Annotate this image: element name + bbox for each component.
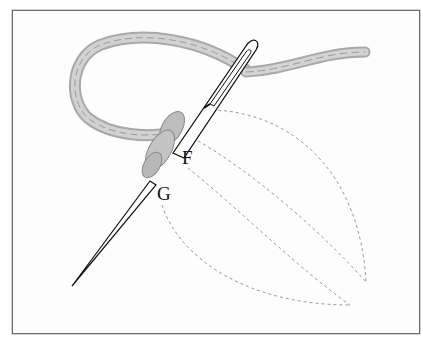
stitch-illustration bbox=[0, 0, 423, 342]
label-point-g: G bbox=[157, 184, 171, 203]
needle bbox=[72, 40, 258, 286]
label-point-f: F bbox=[182, 148, 193, 167]
